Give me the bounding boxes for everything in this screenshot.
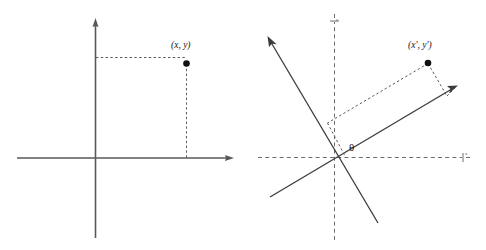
right-y-prime-axis-line — [272, 44, 378, 223]
right-x-reference-axis-label: x — [464, 151, 468, 156]
right-point-label: (x', y') — [408, 40, 432, 51]
right-panel-rotated-axes: x y (x', y') θ — [258, 13, 472, 240]
left-y-axis-arrowhead — [93, 18, 99, 27]
rotation-angle-label: θ — [349, 141, 354, 153]
left-point-dot — [183, 60, 190, 67]
right-projection-parallel-to-y-prime — [428, 64, 447, 97]
left-point-label: (x, y) — [171, 40, 191, 51]
left-x-axis-arrowhead — [225, 155, 234, 161]
right-x-prime-axis-arrowhead — [447, 86, 458, 94]
rotation-of-axes-figure: (x, y) x y — [0, 0, 486, 250]
left-panel-original-axes: (x, y) — [17, 18, 234, 238]
right-point-dot — [425, 60, 432, 67]
right-projection-foot-on-y-prime — [328, 123, 346, 156]
right-x-prime-axis-line — [270, 90, 451, 198]
figure-root: (x, y) x y — [0, 0, 486, 250]
right-projection-parallel-to-x-prime — [328, 64, 429, 124]
